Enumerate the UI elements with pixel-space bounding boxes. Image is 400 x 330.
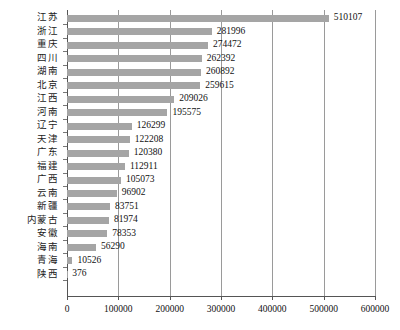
y-axis-category-label: 青海 <box>37 255 58 265</box>
y-axis-tick-mark <box>63 240 67 241</box>
bar-value-label: 259615 <box>205 79 234 92</box>
y-axis-category-label: 北京 <box>37 80 58 90</box>
x-axis-tick-mark <box>272 296 273 300</box>
bar <box>67 15 329 22</box>
bar-value-label: 81974 <box>114 213 138 226</box>
x-axis-tick-mark <box>221 296 222 300</box>
bar-row: 259615 <box>67 79 375 92</box>
bar <box>67 190 117 197</box>
bar-row: 209026 <box>67 93 375 106</box>
y-axis-tick-mark <box>63 226 67 227</box>
y-axis-tick-mark <box>63 119 67 120</box>
bar-row: 126299 <box>67 120 375 133</box>
bar-row: 274472 <box>67 39 375 52</box>
y-axis-category-label: 四川 <box>37 53 58 63</box>
bar-value-label: 78353 <box>112 227 136 240</box>
bar <box>67 82 200 89</box>
y-axis-tick-mark <box>63 65 67 66</box>
y-axis-category-label: 河南 <box>37 107 58 117</box>
bar-value-label: 260892 <box>206 65 235 78</box>
bar-row: 122208 <box>67 133 375 146</box>
bar <box>67 271 68 278</box>
bar-value-label: 10526 <box>77 254 101 267</box>
x-axis-tick-mark <box>375 296 376 300</box>
x-axis-tick-mark <box>324 296 325 300</box>
y-axis-category-label: 天津 <box>37 134 58 144</box>
bar-row: 281996 <box>67 25 375 38</box>
y-axis-tick-mark <box>63 253 67 254</box>
bar <box>67 42 208 49</box>
bar <box>67 28 212 35</box>
bar-value-label: 262392 <box>207 52 236 65</box>
bar-value-label: 56290 <box>101 240 125 253</box>
plot-area: 5101072819962744722623922608922596152090… <box>67 10 375 296</box>
y-axis-tick-mark <box>63 267 67 268</box>
bar-row: 56290 <box>67 241 375 254</box>
bar-row: 96902 <box>67 187 375 200</box>
y-axis-tick-mark <box>63 159 67 160</box>
bar-row: 510107 <box>67 12 375 25</box>
y-axis-category-labels: 江苏浙江重庆四川湖南北京江西河南辽宁天津广东福建广西云南新疆内蒙古安徽海南青海陕… <box>0 0 63 330</box>
x-axis-tick-mark <box>118 296 119 300</box>
gridline <box>375 10 376 296</box>
y-axis-tick-mark <box>63 51 67 52</box>
bar-row: 105073 <box>67 174 375 187</box>
y-axis-category-label: 辽宁 <box>37 120 58 130</box>
bar <box>67 177 121 184</box>
bar-row: 112911 <box>67 160 375 173</box>
y-axis-category-label: 重庆 <box>37 39 58 49</box>
bar-row: 262392 <box>67 52 375 65</box>
y-axis-category-label: 浙江 <box>37 26 58 36</box>
bar-value-label: 126299 <box>137 119 166 132</box>
bar-row: 83751 <box>67 200 375 213</box>
bar-row: 260892 <box>67 66 375 79</box>
y-axis-tick-mark <box>63 24 67 25</box>
bar <box>67 96 174 103</box>
x-axis-tick-label: 300000 <box>207 304 236 315</box>
bar-value-label: 83751 <box>115 200 139 213</box>
bar-row: 81974 <box>67 214 375 227</box>
bar <box>67 230 107 237</box>
y-axis-category-label: 江苏 <box>37 12 58 22</box>
y-axis-category-label: 内蒙古 <box>27 215 59 225</box>
bar-row: 10526 <box>67 254 375 267</box>
bar-value-label: 195575 <box>172 106 201 119</box>
y-axis-category-label: 广西 <box>37 174 58 184</box>
bar <box>67 257 72 264</box>
y-axis-category-label: 海南 <box>37 242 58 252</box>
bar <box>67 244 96 251</box>
y-axis-category-label: 云南 <box>37 188 58 198</box>
horizontal-bar-chart: 江苏浙江重庆四川湖南北京江西河南辽宁天津广东福建广西云南新疆内蒙古安徽海南青海陕… <box>0 0 400 330</box>
y-axis-tick-mark <box>63 199 67 200</box>
bar-value-label: 209026 <box>179 92 208 105</box>
y-axis-category-label: 福建 <box>37 161 58 171</box>
bar <box>67 123 132 130</box>
y-axis-tick-mark <box>63 146 67 147</box>
x-axis-tick-label: 100000 <box>104 304 133 315</box>
bar <box>67 69 201 76</box>
y-axis-category-label: 江西 <box>37 93 58 103</box>
x-axis-tick-label: 0 <box>65 304 70 315</box>
bar-value-label: 96902 <box>122 186 146 199</box>
bar <box>67 163 125 170</box>
y-axis-category-label: 安徽 <box>37 228 58 238</box>
bar <box>67 217 109 224</box>
bar-value-label: 274472 <box>213 38 242 51</box>
y-axis-tick-mark <box>63 173 67 174</box>
y-axis-tick-mark <box>63 78 67 79</box>
bar-row: 195575 <box>67 106 375 119</box>
y-axis-tick-mark <box>63 213 67 214</box>
bar-value-label: 105073 <box>126 173 155 186</box>
bar-value-label: 112911 <box>130 160 158 173</box>
bar <box>67 136 130 143</box>
bar <box>67 109 167 116</box>
y-axis-tick-mark <box>63 92 67 93</box>
y-axis-tick-mark <box>63 186 67 187</box>
bar-row: 78353 <box>67 227 375 240</box>
y-axis-tick-mark <box>63 38 67 39</box>
bar-value-label: 281996 <box>217 25 246 38</box>
bar <box>67 55 202 62</box>
x-axis-tick-mark <box>67 296 68 300</box>
y-axis-category-label: 广东 <box>37 147 58 157</box>
bar-series: 5101072819962744722623922608922596152090… <box>67 10 375 296</box>
